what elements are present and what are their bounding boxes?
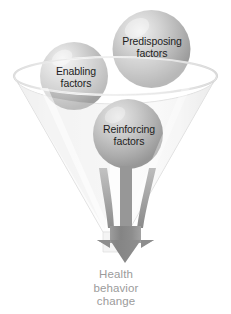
outcome-caption: Health behavior change bbox=[66, 268, 166, 309]
health-behavior-funnel-diagram: Predisposing factors Enabling factors Re… bbox=[0, 0, 231, 314]
outcome-line-3: change bbox=[66, 295, 166, 309]
outcome-line-2: behavior bbox=[66, 282, 166, 296]
outcome-line-1: Health bbox=[66, 268, 166, 282]
funnel-graphic bbox=[0, 0, 231, 314]
